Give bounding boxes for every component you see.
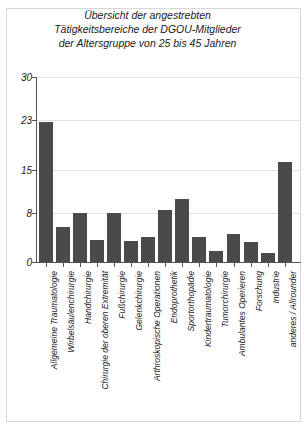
y-tick-label: 30 [4,72,32,83]
x-tick-mark [199,262,200,267]
gridline [36,120,301,121]
x-tick-mark [285,262,286,267]
x-tick-label: Gelenkchirurgie [134,211,144,271]
x-tick-label: Allgemeine Traumatologie [49,173,59,271]
chart-figure: Übersicht der angestrebten Tätigkeitsber… [0,0,307,435]
y-tick-mark [32,77,37,78]
y-tick-mark [32,213,37,214]
x-tick-label: Arthroskopische Operationen [152,161,162,271]
x-tick-label: Kindertraumatologie [203,195,213,271]
x-tick-mark [80,262,81,267]
x-tick-label: Ambulantes Operieren [237,186,247,271]
x-tick-mark [251,262,252,267]
x-tick-label: Handchirurgie [83,218,93,271]
x-tick-mark [268,262,269,267]
x-tick-mark [165,262,166,267]
x-tick-mark [114,262,115,267]
gridline [36,77,301,78]
x-tick-mark [148,262,149,267]
x-tick-label: Wirbelsäulenchirurgie [66,189,76,271]
x-tick-mark [97,262,98,267]
x-tick-label: Forschung [254,231,264,271]
gridline [36,170,301,171]
x-tick-mark [182,262,183,267]
x-tick-label: anderes / Allrounder [288,195,298,271]
x-tick-label: Tumorchirurgie [220,214,230,271]
y-tick-mark [32,262,37,263]
x-tick-label: Sportorthopädie [186,211,196,272]
x-tick-label: Chirurgie der oberen Extremität [100,152,110,271]
x-tick-label: Fußchirurgie [117,223,127,271]
x-tick-mark [234,262,235,267]
y-tick-label: 23 [4,115,32,126]
x-tick-mark [131,262,132,267]
y-axis-labels: 08152330 [0,0,32,435]
y-tick-label: 8 [4,207,32,218]
chart-title: Übersicht der angestrebten Tätigkeitsber… [10,8,285,50]
x-tick-label: Industrie [271,238,281,271]
y-tick-mark [32,170,37,171]
x-tick-mark [46,262,47,267]
x-tick-label: Endoprothetik [169,219,179,271]
x-tick-mark [63,262,64,267]
y-tick-label: 15 [4,164,32,175]
x-tick-mark [216,262,217,267]
y-tick-label: 0 [4,257,32,268]
y-tick-mark [32,120,37,121]
